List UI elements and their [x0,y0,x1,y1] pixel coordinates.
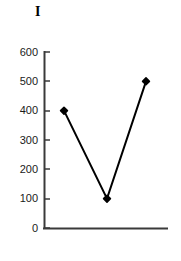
data-point-marker [61,107,68,114]
chart-figure: I 600 500 400 300 200 100 0 [0,0,181,261]
data-point-marker [104,195,111,202]
plot-area [0,0,181,261]
data-markers-series-1 [61,78,150,202]
data-point-marker [143,78,150,85]
data-line-series-1 [64,81,146,198]
